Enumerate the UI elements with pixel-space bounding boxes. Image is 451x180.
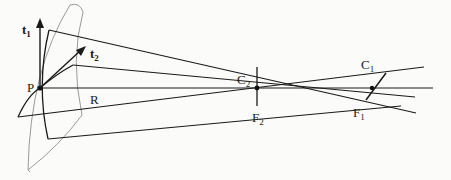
label-t2: t2: [90, 46, 99, 63]
t2-arrowhead-icon: [76, 46, 86, 56]
point-c1: [370, 86, 374, 90]
point-c2: [255, 86, 260, 91]
label-f1: F1: [353, 105, 365, 122]
ray-bottom: [48, 106, 401, 139]
label-t1: t1: [22, 22, 31, 39]
t1-arrowhead-icon: [36, 18, 44, 28]
label-p: P: [27, 80, 34, 95]
diagram: t1 t2 P R C2 F2 C1 F1: [0, 0, 451, 180]
label-f2: F2: [252, 110, 264, 127]
focal-line-f1: [366, 73, 386, 100]
label-r: R: [90, 92, 99, 107]
label-c1: C1: [361, 57, 374, 74]
